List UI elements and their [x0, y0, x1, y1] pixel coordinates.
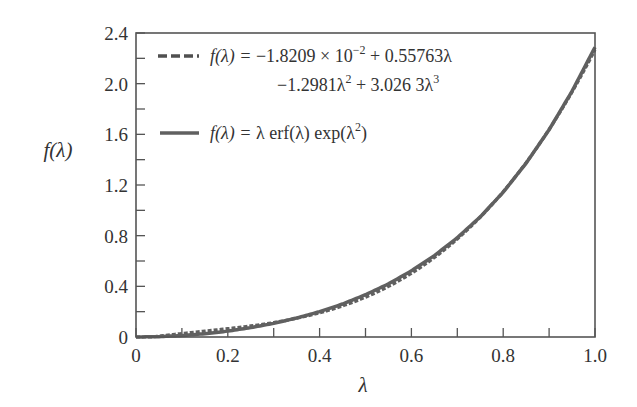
x-axis-label: λ [357, 373, 367, 397]
legend-entry-polynomial-line1: f(λ) = −1.8209 × 10−2 + 0.55763λ [210, 43, 452, 67]
x-tick-label: 1.0 [583, 345, 607, 366]
y-tick-label: 0.8 [104, 226, 128, 247]
x-tick-label: 0.2 [216, 345, 240, 366]
legend: f(λ) = −1.8209 × 10−2 + 0.55763λ −1.2981… [158, 43, 452, 144]
y-tick-labels: 00.40.81.21.62.02.4 [104, 23, 128, 348]
legend-entry-exact: f(λ) = λ erf(λ) exp(λ2) [210, 120, 367, 144]
y-tick-label: 0.4 [104, 276, 128, 297]
x-tick-label: 0.8 [491, 345, 515, 366]
y-tick-label: 1.6 [104, 124, 128, 145]
y-axis-label: f(λ) [44, 138, 73, 162]
x-tick-label: 0 [131, 345, 141, 366]
legend-entry-polynomial-line2: −1.2981λ2 + 3.026 3λ3 [277, 72, 439, 95]
chart: 00.20.40.60.81.0 00.40.81.21.62.02.4 λ f… [0, 0, 637, 407]
y-tick-label: 2.0 [104, 74, 128, 95]
y-tick-label: 1.2 [104, 175, 128, 196]
x-tick-label: 0.4 [308, 345, 332, 366]
x-tick-label: 0.6 [400, 345, 424, 366]
y-tick-label: 2.4 [104, 23, 128, 44]
y-tick-label: 0 [119, 327, 129, 348]
x-tick-labels: 00.20.40.60.81.0 [131, 345, 607, 366]
